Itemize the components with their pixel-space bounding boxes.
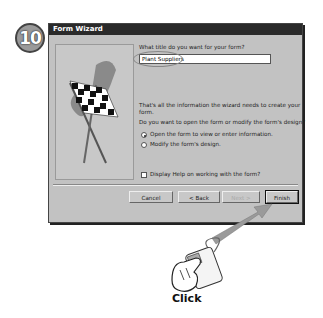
title-bar: Form Wizard	[49, 24, 302, 35]
finish-button[interactable]: Finish	[266, 191, 298, 203]
cancel-button[interactable]: Cancel	[129, 191, 173, 203]
step-number: 10	[19, 28, 41, 48]
radio-modify-design[interactable]	[141, 142, 147, 148]
option-modify-design-label[interactable]: Modify the form's design.	[150, 141, 221, 147]
help-checkbox[interactable]	[141, 172, 147, 178]
wizard-illustration	[55, 44, 134, 180]
next-button[interactable]: Next >	[222, 191, 260, 203]
mouse-cord-icon	[206, 238, 220, 252]
form-wizard-dialog: Form Wizard What titl	[48, 23, 303, 223]
button-separator	[53, 184, 298, 186]
title-prompt-label: What title do you want for your form?	[139, 44, 244, 50]
back-button[interactable]: < Back	[178, 191, 220, 203]
highlight-ellipse	[133, 51, 183, 67]
info-text-line2: form.	[139, 109, 154, 115]
click-instruction-label: Click	[172, 292, 201, 305]
step-number-badge: 10	[15, 23, 45, 53]
radio-open-form[interactable]	[141, 132, 147, 138]
window-title: Form Wizard	[53, 25, 103, 33]
info-text-line1: That's all the information the wizard ne…	[139, 102, 300, 108]
checkered-flag-icon	[56, 45, 133, 179]
option-open-form-label[interactable]: Open the form to view or enter informati…	[150, 131, 273, 137]
question-label: Do you want to open the form or modify t…	[139, 119, 305, 125]
help-checkbox-label[interactable]: Display Help on working with the form?	[150, 171, 260, 177]
mouse-hand-icon	[172, 246, 223, 291]
